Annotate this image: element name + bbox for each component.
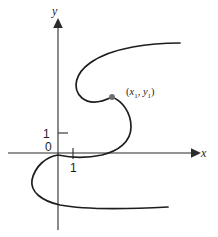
marked-point-label: (x1, y1)	[126, 86, 155, 100]
x-tick-label-1: 1	[70, 161, 77, 175]
point-label-close-paren: )	[151, 86, 155, 98]
function-curve	[32, 43, 180, 209]
y-axis-label: y	[51, 4, 58, 18]
x-axis-arrowhead	[191, 148, 201, 158]
figure-svg: x y 1 1 0 (x1, y1)	[0, 0, 218, 237]
y-tick-label-1: 1	[43, 127, 50, 141]
origin-label: 0	[45, 140, 52, 154]
x-axis-label: x	[200, 146, 207, 160]
marked-point-dot	[109, 94, 115, 100]
y-axis-arrowhead	[53, 18, 63, 28]
figure-canvas: x y 1 1 0 (x1, y1)	[0, 0, 218, 237]
